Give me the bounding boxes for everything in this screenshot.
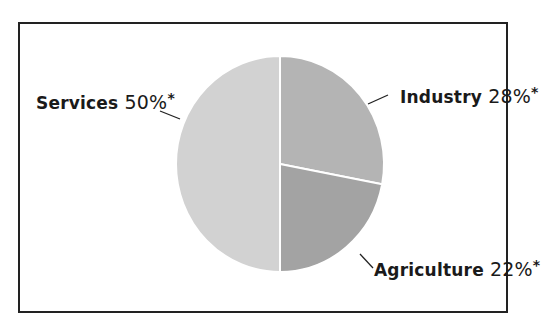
pie-slice-industry xyxy=(280,56,384,184)
label-agriculture-marker: * xyxy=(533,257,541,273)
leader-line-agriculture xyxy=(360,254,373,268)
label-services: Services 50%* xyxy=(36,90,175,113)
label-industry-marker: * xyxy=(531,84,539,100)
label-agriculture: Agriculture 22%* xyxy=(374,257,540,280)
label-agriculture-name: Agriculture xyxy=(374,260,484,280)
leader-line-industry xyxy=(368,95,388,104)
label-agriculture-value: 22% xyxy=(490,258,533,280)
label-services-value: 50% xyxy=(125,91,168,113)
label-industry-value: 28% xyxy=(488,85,531,107)
pie-slice-agriculture xyxy=(280,164,382,272)
label-services-marker: * xyxy=(167,90,175,106)
pie-slice-services xyxy=(176,56,280,272)
label-industry: Industry 28%* xyxy=(400,84,539,107)
label-services-name: Services xyxy=(36,93,118,113)
label-industry-name: Industry xyxy=(400,87,482,107)
